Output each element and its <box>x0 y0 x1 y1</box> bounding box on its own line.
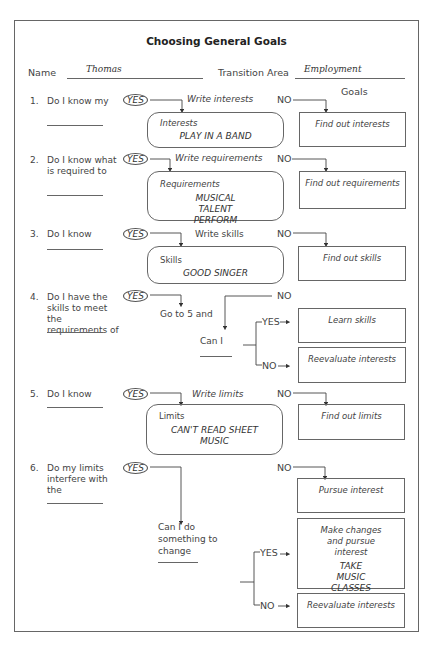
q4-answer-line[interactable] <box>47 332 103 333</box>
q1-number: 1. <box>30 96 39 106</box>
q2-box-label: Requirements <box>160 179 220 189</box>
q3-yes-option[interactable]: YES <box>123 228 148 240</box>
goals-column-label: Goals <box>341 86 368 97</box>
q1-text: Do I know my <box>47 96 117 107</box>
q2-number: 2. <box>30 155 39 165</box>
q6-make-changes-label: Make changes and pursue interest <box>298 525 404 558</box>
q3-number: 3. <box>30 229 39 239</box>
q5-goal-box[interactable]: Find out limits <box>298 404 405 440</box>
q6-sub-no-label[interactable]: NO <box>260 600 275 611</box>
q1-box-value[interactable]: PLAY IN A BAND <box>148 131 283 142</box>
page-title: Choosing General Goals <box>0 35 433 47</box>
q1-box-label: Interests <box>160 118 197 128</box>
q6-make-changes-box[interactable]: Make changes and pursue interest TAKE MU… <box>297 518 405 589</box>
q3-yes-action: Write skills <box>195 229 244 239</box>
q4-number: 4. <box>30 292 39 302</box>
q3-box-value[interactable]: GOOD SINGER <box>148 268 283 279</box>
q6-yes-option[interactable]: YES <box>123 462 148 474</box>
q6-sub-yes-label[interactable]: YES <box>260 547 278 558</box>
q5-box-value[interactable]: CAN'T READ SHEET MUSIC <box>169 425 260 447</box>
transition-area-field-line[interactable] <box>295 78 405 79</box>
q4-sub-no-label[interactable]: NO <box>262 360 277 371</box>
q6-reevaluate-box[interactable]: Reevaluate interests <box>297 593 405 628</box>
q4-sub-yes-label[interactable]: YES <box>262 316 280 327</box>
q5-answer-line[interactable] <box>47 407 103 408</box>
q3-box-label: Skills <box>160 255 182 265</box>
q4-sub-answer-line[interactable] <box>200 356 232 357</box>
q1-yes-option[interactable]: YES <box>123 94 148 106</box>
q1-interests-box[interactable]: Interests PLAY IN A BAND <box>147 112 284 148</box>
q2-requirements-box[interactable]: Requirements MUSICAL TALENT PERFORM <box>147 171 284 221</box>
name-label: Name <box>28 67 56 78</box>
q3-answer-line[interactable] <box>47 249 103 250</box>
name-field-value[interactable]: Thomas <box>86 64 122 74</box>
q5-no-option[interactable]: NO <box>277 388 292 399</box>
q4-reevaluate-box[interactable]: Reevaluate interests <box>298 347 406 383</box>
q6-make-changes-value[interactable]: TAKE MUSIC CLASSES <box>298 558 404 594</box>
q2-answer-line[interactable] <box>47 195 103 196</box>
q4-sub-question: Can I <box>200 336 223 346</box>
q6-sub-question: Can I do something to change <box>158 521 218 557</box>
q6-text: Do my limits interfere with the <box>47 463 109 496</box>
q3-goal-box[interactable]: Find out skills <box>298 246 406 281</box>
q5-limits-box[interactable]: Limits CAN'T READ SHEET MUSIC <box>146 404 283 455</box>
q5-yes-option[interactable]: YES <box>123 388 148 400</box>
q5-box-label: Limits <box>159 411 185 421</box>
q2-goal-box[interactable]: Find out requirements <box>299 171 406 209</box>
q3-no-option[interactable]: NO <box>277 228 292 239</box>
q6-sub-answer-line[interactable] <box>158 562 198 563</box>
q4-learn-skills-box[interactable]: Learn skills <box>298 308 406 343</box>
q2-yes-option[interactable]: YES <box>123 153 148 165</box>
q4-yes-option[interactable]: YES <box>123 290 148 302</box>
q3-skills-box[interactable]: Skills GOOD SINGER <box>147 246 284 284</box>
name-field-line[interactable] <box>67 78 203 79</box>
transition-area-label: Transition Area <box>218 67 289 78</box>
q1-no-option[interactable]: NO <box>277 94 292 105</box>
q6-number: 6. <box>30 463 39 473</box>
q2-text: Do I know what is required to <box>47 155 122 177</box>
q5-number: 5. <box>30 389 39 399</box>
q3-text: Do I know <box>47 229 117 240</box>
q4-text: Do I have the skills to meet the require… <box>47 292 122 336</box>
q5-text: Do I know <box>47 389 117 400</box>
q2-no-option[interactable]: NO <box>277 153 292 164</box>
q6-answer-line[interactable] <box>47 503 103 504</box>
q4-yes-action: Go to 5 and <box>160 309 213 319</box>
q2-box-value[interactable]: MUSICAL TALENT PERFORM <box>178 193 253 226</box>
q4-no-option[interactable]: NO <box>277 290 292 301</box>
q6-pursue-interest-box[interactable]: Pursue interest <box>297 478 405 513</box>
q2-yes-action: Write requirements <box>175 153 263 163</box>
q1-goal-box[interactable]: Find out interests <box>299 112 406 147</box>
transition-area-field-value[interactable]: Employment <box>304 64 362 74</box>
q1-yes-action: Write interests <box>187 94 253 104</box>
q5-yes-action: Write limits <box>192 389 243 399</box>
q6-no-option[interactable]: NO <box>277 462 292 473</box>
q1-answer-line[interactable] <box>47 125 103 126</box>
